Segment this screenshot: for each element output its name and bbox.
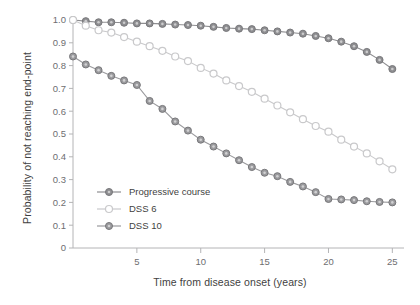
- data-point-highlight: [314, 191, 317, 194]
- data-point: [121, 34, 128, 41]
- legend-marker-highlight: [108, 191, 111, 194]
- data-point-highlight: [238, 27, 241, 30]
- data-point-highlight: [353, 45, 356, 48]
- y-tick-label: 0: [61, 242, 66, 253]
- x-tick-label: 10: [195, 256, 206, 267]
- data-point-highlight: [161, 108, 164, 111]
- chart-legend: Progressive courseDSS 6DSS 10: [97, 186, 210, 231]
- data-point-highlight: [97, 21, 100, 24]
- legend-marker: [106, 206, 113, 213]
- plot-area: 00.10.20.30.40.50.60.70.80.91.0 51015202…: [0, 0, 420, 305]
- legend-label: DSS 6: [129, 203, 156, 214]
- data-point: [351, 143, 358, 150]
- legend-marker-highlight: [108, 225, 111, 228]
- data-point: [70, 17, 77, 24]
- data-point-highlight: [238, 159, 241, 162]
- x-tick-label: 25: [387, 256, 398, 267]
- data-point-highlight: [174, 23, 177, 26]
- data-point: [236, 83, 243, 90]
- data-point: [210, 70, 217, 77]
- y-axis: 00.10.20.30.40.50.60.70.80.91.0: [53, 14, 73, 253]
- legend-label: DSS 10: [129, 220, 162, 231]
- data-point: [146, 43, 153, 50]
- data-point-highlight: [212, 145, 215, 148]
- data-point: [312, 123, 319, 130]
- data-point-highlight: [148, 100, 151, 103]
- data-point: [325, 128, 332, 135]
- data-point-highlight: [110, 75, 113, 78]
- data-point-highlight: [123, 79, 126, 82]
- data-point-highlight: [212, 26, 215, 29]
- data-point: [95, 27, 102, 34]
- y-tick-label: 0.5: [53, 128, 66, 139]
- data-point-highlight: [199, 24, 202, 27]
- y-tick-label: 0.1: [53, 220, 66, 231]
- data-point: [261, 95, 268, 102]
- data-point-highlight: [225, 27, 228, 30]
- y-tick-label: 0.7: [53, 83, 66, 94]
- legend-item: DSS 6: [97, 203, 156, 214]
- data-point-highlight: [391, 201, 394, 204]
- x-tick-label: 20: [323, 256, 334, 267]
- data-point-highlight: [378, 59, 381, 62]
- data-point-highlight: [327, 198, 330, 201]
- data-point-highlight: [263, 171, 266, 174]
- data-point: [338, 136, 345, 143]
- data-point-highlight: [136, 22, 139, 25]
- data-point: [184, 58, 191, 65]
- data-point-highlight: [340, 40, 343, 43]
- data-point: [389, 166, 396, 173]
- x-tick-label: 15: [259, 256, 270, 267]
- data-point-highlight: [225, 152, 228, 155]
- data-point: [108, 29, 115, 36]
- data-point-highlight: [289, 31, 292, 34]
- series-1: [70, 17, 396, 73]
- data-point-highlight: [365, 200, 368, 203]
- data-point-highlight: [110, 21, 113, 24]
- data-point-highlight: [327, 37, 330, 40]
- data-point-highlight: [199, 138, 202, 141]
- series-3: [70, 53, 396, 206]
- survival-curve-figure: Probability of not reaching end-point Ti…: [0, 0, 420, 305]
- legend-label: Progressive course: [129, 186, 210, 197]
- data-point-highlight: [161, 23, 164, 26]
- x-axis: 510152025: [73, 248, 404, 267]
- data-point-highlight: [340, 198, 343, 201]
- data-point-highlight: [174, 120, 177, 123]
- data-point: [376, 158, 383, 165]
- data-point: [159, 47, 166, 54]
- data-point-highlight: [378, 201, 381, 204]
- series-line: [73, 20, 392, 69]
- data-point: [82, 22, 89, 29]
- y-tick-label: 0.3: [53, 174, 66, 185]
- data-series-group: [70, 17, 396, 206]
- data-point-highlight: [72, 55, 75, 58]
- y-tick-label: 0.4: [53, 151, 66, 162]
- series-2: [70, 17, 396, 173]
- y-tick-label: 1.0: [53, 14, 66, 25]
- y-tick-label: 0.6: [53, 106, 66, 117]
- data-point: [248, 88, 255, 95]
- data-point-highlight: [97, 69, 100, 72]
- data-point: [274, 102, 281, 109]
- data-point: [287, 109, 294, 116]
- data-point-highlight: [365, 51, 368, 54]
- data-point-highlight: [84, 63, 87, 66]
- data-point: [133, 38, 140, 45]
- data-point-highlight: [136, 84, 139, 87]
- y-tick-label: 0.2: [53, 197, 66, 208]
- data-point-highlight: [302, 185, 305, 188]
- legend-item: DSS 10: [97, 220, 162, 231]
- data-point: [172, 53, 179, 60]
- data-point-highlight: [391, 68, 394, 71]
- data-point: [223, 77, 230, 84]
- data-point-highlight: [314, 35, 317, 38]
- data-point: [363, 150, 370, 157]
- data-point-highlight: [187, 129, 190, 132]
- data-point-highlight: [289, 181, 292, 184]
- y-tick-label: 0.9: [53, 37, 66, 48]
- data-point-highlight: [302, 32, 305, 35]
- data-point-highlight: [276, 30, 279, 33]
- x-tick-label: 5: [134, 256, 139, 267]
- data-point-highlight: [251, 28, 254, 31]
